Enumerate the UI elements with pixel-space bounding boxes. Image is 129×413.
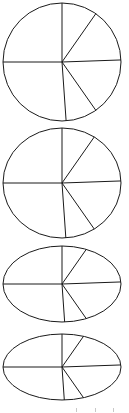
tick-mark-2 — [95, 408, 96, 412]
sector-diagram-figure — [0, 0, 129, 413]
tick-mark-3 — [113, 408, 114, 412]
tick-mark-1 — [76, 408, 77, 412]
shape-group-1 — [3, 3, 121, 121]
shape-group-4 — [3, 334, 121, 400]
shape-group-2 — [3, 128, 121, 238]
shape-group-3 — [3, 246, 121, 322]
